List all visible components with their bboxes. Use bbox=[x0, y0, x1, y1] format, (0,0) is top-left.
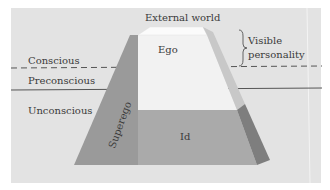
id-region bbox=[138, 110, 257, 165]
unconscious-label: Unconscious bbox=[28, 106, 92, 116]
diagram-graphic bbox=[0, 0, 330, 190]
ego-label: Ego bbox=[158, 45, 178, 55]
preconscious-label: Preconscious bbox=[28, 76, 95, 86]
personality-label: personality bbox=[248, 50, 305, 60]
id-label: Id bbox=[180, 132, 190, 142]
conscious-label: Conscious bbox=[28, 56, 80, 66]
top-face bbox=[138, 27, 207, 35]
visible-label: Visible bbox=[248, 36, 282, 46]
id-ego-superego-diagram: External world Conscious Preconscious Un… bbox=[0, 0, 330, 190]
external-world-label: External world bbox=[145, 13, 220, 23]
